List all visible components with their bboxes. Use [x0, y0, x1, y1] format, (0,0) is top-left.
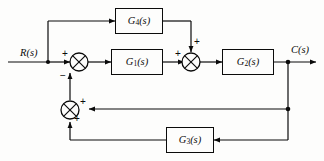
takeoff-node-feedback [286, 107, 291, 112]
block-g4: G4(s) [115, 8, 163, 34]
sign-sum2-top: + [194, 36, 200, 47]
takeoff-node-input [46, 60, 50, 64]
block-g1: G1(s) [111, 49, 163, 75]
block-g2-label: G2(s) [237, 56, 259, 68]
block-g3-label: G3(s) [179, 134, 201, 146]
block-g4-label: G4(s) [128, 15, 150, 27]
sign-sum3-right-top: + [80, 96, 86, 107]
sign-sum2-left: + [175, 48, 181, 59]
block-g3: G3(s) [166, 127, 214, 153]
block-g2: G2(s) [222, 49, 274, 75]
block-g1-label: G1(s) [126, 56, 148, 68]
sign-sum1-left: + [62, 48, 68, 59]
takeoff-node-output [286, 60, 291, 65]
sign-sum1-bottom: − [60, 70, 66, 81]
input-signal-label: R(s) [20, 47, 38, 58]
sign-sum3-right-bottom: + [74, 113, 80, 124]
output-signal-label: C(s) [291, 44, 309, 55]
block-diagram: G4(s) G1(s) G2(s) G3(s) R(s) C(s) + − + … [0, 0, 324, 161]
